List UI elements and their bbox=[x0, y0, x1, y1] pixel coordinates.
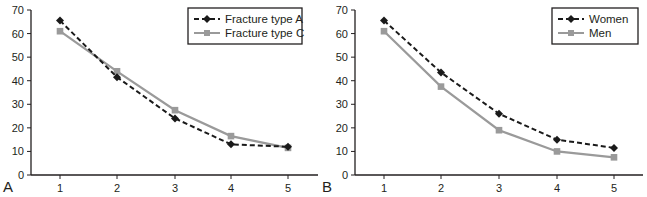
y-tick-label: 30 bbox=[12, 98, 24, 110]
x-tick-label: 1 bbox=[57, 182, 63, 194]
y-tick-label: 10 bbox=[12, 145, 24, 157]
y-tick-label: 10 bbox=[336, 145, 348, 157]
series-line bbox=[60, 31, 288, 148]
y-tick-label: 70 bbox=[336, 4, 348, 16]
legend-label: Fracture type A bbox=[225, 13, 303, 25]
square-marker bbox=[438, 83, 445, 90]
diamond-marker bbox=[227, 140, 235, 148]
x-tick-label: 1 bbox=[381, 182, 387, 194]
x-tick-label: 4 bbox=[228, 182, 234, 194]
legend-label: Men bbox=[589, 27, 611, 39]
y-tick-label: 0 bbox=[18, 169, 24, 181]
diamond-marker bbox=[610, 144, 618, 152]
y-tick-label: 0 bbox=[342, 169, 348, 181]
square-marker bbox=[57, 28, 64, 35]
figure: 01020304050607012345AFracture type AFrac… bbox=[0, 0, 647, 197]
square-marker bbox=[381, 28, 388, 35]
x-tick-label: 5 bbox=[285, 182, 291, 194]
legend-label: Women bbox=[589, 13, 628, 25]
x-tick-label: 3 bbox=[172, 182, 178, 194]
legend: WomenMen bbox=[552, 8, 638, 44]
panel-label: B bbox=[322, 178, 332, 195]
y-tick-label: 50 bbox=[336, 51, 348, 63]
y-tick-label: 60 bbox=[336, 28, 348, 40]
y-tick-label: 60 bbox=[12, 28, 24, 40]
y-tick-label: 40 bbox=[336, 75, 348, 87]
y-tick-label: 50 bbox=[12, 51, 24, 63]
panel-label: A bbox=[3, 178, 13, 195]
square-marker bbox=[554, 148, 561, 155]
legend-label: Fracture type C bbox=[225, 27, 304, 39]
y-tick-label: 70 bbox=[12, 4, 24, 16]
chart-panel-b: 01020304050607012345BWomenMen bbox=[322, 4, 643, 195]
x-tick-label: 4 bbox=[554, 182, 560, 194]
legend: Fracture type AFracture type C bbox=[188, 8, 304, 44]
x-tick-label: 2 bbox=[438, 182, 444, 194]
chart-panel-a: 01020304050607012345AFracture type AFrac… bbox=[3, 4, 318, 195]
series-line bbox=[384, 31, 614, 157]
square-marker bbox=[611, 154, 618, 161]
y-tick-label: 30 bbox=[336, 98, 348, 110]
x-tick-label: 5 bbox=[611, 182, 617, 194]
diamond-marker bbox=[553, 136, 561, 144]
x-tick-label: 3 bbox=[496, 182, 502, 194]
y-tick-label: 20 bbox=[336, 122, 348, 134]
square-marker bbox=[496, 127, 503, 134]
square-marker bbox=[172, 107, 179, 114]
y-tick-label: 40 bbox=[12, 75, 24, 87]
y-tick-label: 20 bbox=[12, 122, 24, 134]
x-tick-label: 2 bbox=[114, 182, 120, 194]
square-marker bbox=[228, 133, 235, 140]
